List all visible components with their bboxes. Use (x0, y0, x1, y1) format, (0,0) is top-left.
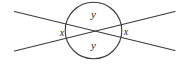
label-x-left: x (59, 27, 65, 38)
figure-canvas: y y x x (0, 0, 187, 64)
geometry-figure: y y x x (0, 0, 187, 64)
label-y-top: y (90, 8, 96, 20)
label-y-bottom: y (90, 39, 96, 51)
label-x-right: x (123, 26, 129, 37)
